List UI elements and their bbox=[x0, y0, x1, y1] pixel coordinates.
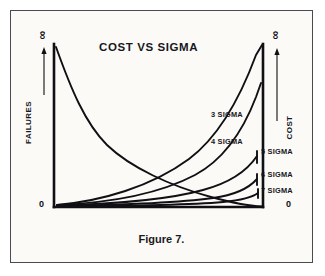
series-label-5-sigma: 5 SIGMA bbox=[261, 147, 293, 156]
cost-axis-arrow-head bbox=[274, 48, 279, 55]
failures-axis-max-label: ∞ bbox=[35, 31, 49, 40]
series-label-4-sigma: 4 SIGMA bbox=[211, 137, 243, 146]
chart-title: COST VS SIGMA bbox=[99, 41, 198, 53]
chart-plot-area: COST VS SIGMA FAILURES COST ∞ ∞ 0 0 3 SI… bbox=[11, 11, 312, 262]
failures-axis-arrow-head bbox=[41, 47, 46, 54]
figure-caption: Figure 7. bbox=[11, 233, 312, 245]
cost-curve-3-sigma bbox=[57, 45, 262, 205]
failures-axis-min-label: 0 bbox=[39, 199, 44, 209]
failures-curve bbox=[56, 47, 262, 207]
cost-axis-min-label: 0 bbox=[286, 199, 291, 209]
series-label-3-sigma: 3 SIGMA bbox=[211, 110, 243, 119]
figure-frame: COST VS SIGMA FAILURES COST ∞ ∞ 0 0 3 SI… bbox=[10, 10, 313, 263]
cost-curve-5-sigma bbox=[57, 156, 257, 206]
series-label-6-sigma: 6 SIGMA bbox=[261, 170, 293, 179]
cost-axis-max-label: ∞ bbox=[268, 31, 282, 40]
series-label-7-sigma: 7 SIGMA bbox=[261, 186, 293, 195]
failures-axis-label: FAILURES bbox=[24, 93, 33, 153]
